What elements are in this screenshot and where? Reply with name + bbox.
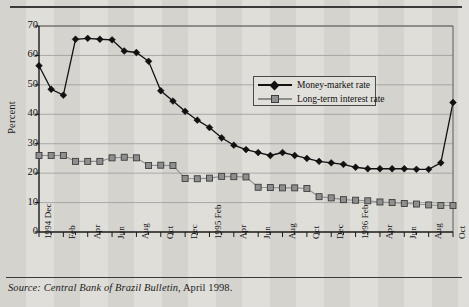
x-tick-label: Aug <box>140 223 150 239</box>
y-tick-label: 50 <box>16 79 38 90</box>
x-tick-label: Apr <box>384 225 394 239</box>
y-tick-label: 70 <box>16 20 38 31</box>
x-tick-label: Oct <box>457 226 467 239</box>
y-tick-label: 30 <box>16 138 38 149</box>
x-tick-label: Apr <box>238 225 248 239</box>
x-tick-label: 1995 Feb <box>213 204 223 239</box>
x-tick-label: Jun <box>116 226 126 239</box>
y-tick-label: 60 <box>16 49 38 60</box>
x-tick-label: Aug <box>433 223 443 239</box>
y-tick-label: 10 <box>16 197 38 208</box>
x-tick-label: Dec <box>189 224 199 239</box>
y-tick-label: 0 <box>16 226 38 237</box>
bottom-rule-divider <box>6 277 462 278</box>
x-tick-label: Feb <box>67 225 77 239</box>
source-date: , April 1998. <box>178 282 232 293</box>
source-prefix: Source: <box>8 282 41 293</box>
y-axis-ticks: 010203040506070 <box>10 0 38 277</box>
diamond-marker-icon <box>258 79 292 91</box>
legend-label-long-term: Long-term interest rate <box>292 94 385 104</box>
legend-entry-long-term: Long-term interest rate <box>258 92 385 106</box>
y-tick-label: 20 <box>16 167 38 178</box>
source-publication: Central Bank of Brazil Bulletin <box>41 282 178 293</box>
legend-entry-money-market: Money-market rate <box>258 78 370 92</box>
x-tick-label: Dec <box>335 224 345 239</box>
chart-plot-area: Percent 010203040506070 1994 DecFebAprJu… <box>0 0 469 277</box>
x-tick-label: Jun <box>262 226 272 239</box>
x-tick-label: Oct <box>165 226 175 239</box>
y-tick-label: 40 <box>16 108 38 119</box>
x-tick-label: Oct <box>311 226 321 239</box>
x-tick-label: 1994 Dec <box>43 203 53 239</box>
x-tick-label: Jun <box>408 226 418 239</box>
chart-legend: Money-market rate Long-term interest rat… <box>253 76 376 106</box>
x-tick-label: 1996 Feb <box>360 204 370 239</box>
figure-container: Percent 010203040506070 1994 DecFebAprJu… <box>0 0 469 307</box>
source-note: Source: Central Bank of Brazil Bulletin,… <box>8 282 232 293</box>
legend-label-money-market: Money-market rate <box>292 80 370 90</box>
x-tick-label: Apr <box>92 225 102 239</box>
square-marker-icon <box>258 93 292 105</box>
x-tick-label: Aug <box>287 223 297 239</box>
